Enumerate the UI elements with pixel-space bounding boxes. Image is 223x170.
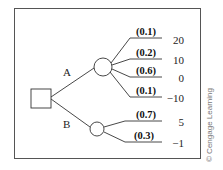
outcome-b1-edge (104, 121, 162, 127)
probability-b2: (0.3) (134, 130, 155, 142)
decision-tree-diagram: A B (0.1) (0.2) (0.6) (0.1) (0.7) (0.3) … (0, 0, 223, 170)
branch-b-line (51, 99, 90, 127)
branch-a-line (51, 68, 94, 97)
probability-a1: (0.1) (136, 26, 157, 38)
payoff-b2: −1 (172, 137, 184, 149)
alternative-a-label: A (63, 66, 71, 78)
payoff-a3: 0 (179, 72, 185, 84)
chance-node-a (94, 58, 112, 76)
payoff-b1: 5 (179, 116, 185, 128)
probability-a4: (0.1) (136, 85, 157, 97)
diagram-frame (15, 9, 201, 159)
chance-node-b (90, 122, 104, 136)
payoff-a4: −10 (167, 92, 185, 104)
probability-b1: (0.7) (136, 109, 157, 121)
decision-node (31, 89, 51, 108)
probability-a3: (0.6) (136, 65, 157, 77)
payoff-a2: 10 (173, 54, 185, 66)
payoff-a1: 20 (173, 34, 185, 46)
probability-a2: (0.2) (136, 47, 157, 59)
alternative-b-label: B (63, 118, 70, 130)
copyright-credit: © Cengage Learning (205, 88, 214, 162)
